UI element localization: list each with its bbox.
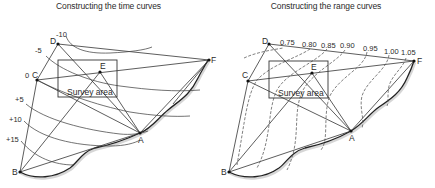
range-label-085: 0.85 <box>321 41 336 50</box>
point-b-marker <box>18 170 21 173</box>
point-a-label: A <box>138 135 144 145</box>
line-d-c <box>248 44 269 81</box>
line-f-a <box>140 60 209 133</box>
range-label-095: 0.95 <box>363 44 378 53</box>
time-curves-diagram: Survey area D C E F A B -10 -5 0 +5 +10 … <box>0 0 217 188</box>
line-c-f <box>248 61 414 81</box>
time-label-0: 0 <box>25 71 29 80</box>
survey-area-label: Survey area <box>278 88 324 98</box>
range-label-090: 0.90 <box>340 41 355 50</box>
time-label-plus15: +15 <box>6 135 19 144</box>
point-d-label: D <box>262 36 268 46</box>
line-f-a <box>351 61 414 131</box>
line-c-f <box>37 60 209 80</box>
survey-area-label: Survey area <box>67 87 113 97</box>
point-c-label: C <box>32 70 38 80</box>
range-label-075: 0.75 <box>280 38 295 47</box>
line-f-coast <box>173 60 209 104</box>
range-label-080: 0.80 <box>302 40 317 49</box>
point-d-marker <box>56 42 59 45</box>
line-e-a <box>312 73 351 131</box>
line-e-a <box>100 72 140 133</box>
point-f-marker <box>412 59 415 62</box>
line-b-a <box>20 133 140 172</box>
time-label-minus10: -10 <box>56 30 67 39</box>
point-c-label: C <box>242 70 248 80</box>
range-label-105: 1.05 <box>401 48 416 57</box>
coastline <box>20 60 208 177</box>
time-label-minus5: -5 <box>35 46 42 55</box>
point-b-label: B <box>221 167 227 177</box>
time-curve-minus5 <box>46 56 200 91</box>
time-curve-plus5 <box>26 104 148 134</box>
point-f-label: F <box>211 55 216 65</box>
time-curves-panel: Constructing the time curves Survey area <box>0 0 217 188</box>
point-e-label: E <box>100 61 106 71</box>
range-curves-diagram: Survey area D C E F A B 0.75 0.80 0.85 0… <box>217 0 435 188</box>
line-c-b <box>20 80 37 172</box>
time-label-plus5: +5 <box>15 95 24 104</box>
point-b-label: B <box>12 167 18 177</box>
point-b-marker <box>227 170 230 173</box>
range-curve-080 <box>237 49 310 165</box>
range-curves-panel: Constructing the range curves Survey are… <box>217 0 435 188</box>
range-label-100: 1.00 <box>384 47 399 56</box>
time-curve-minus10 <box>66 36 152 53</box>
line-b-a <box>229 131 351 172</box>
time-label-plus10: +10 <box>9 115 22 124</box>
point-a-label: A <box>349 133 355 143</box>
point-e-label: E <box>311 62 317 72</box>
line-d-f <box>58 44 209 60</box>
coastline <box>229 61 414 177</box>
point-f-label: F <box>417 56 422 66</box>
